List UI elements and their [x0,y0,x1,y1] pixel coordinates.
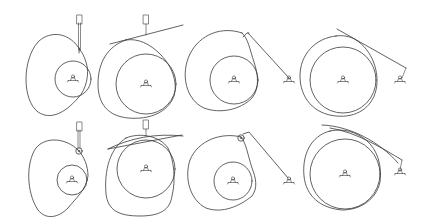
cam-pivot-icon [68,75,79,82]
cam-pivot-icon [340,170,351,177]
follower-link [402,68,406,78]
follower-roller-translating [76,122,82,154]
follower-flat-faced-translating [110,15,183,44]
follower-knife-edge-oscillating [243,33,295,83]
cam-profile [185,31,257,111]
follower-guide-icon [77,122,82,131]
mechanism-flat-faced-translating [98,15,183,118]
cam-pivot-icon [67,176,78,183]
cam-pivot-icon [141,80,152,87]
follower-arm [248,33,289,78]
base-circle [210,56,258,104]
flat-face [110,25,183,44]
cam-profile [98,40,175,119]
cam-profile [29,140,88,217]
follower-guide-icon [77,15,82,24]
follower-roller-oscillating [238,132,295,184]
mechanism-flat-faced-oscillating [300,29,406,116]
follower-knife-edge-translating [77,15,82,53]
cam-profile [188,136,256,211]
base-circle [117,140,175,198]
roller-pin-icon [240,137,242,139]
cam-pivot-icon [141,165,152,172]
flat-face [337,29,406,68]
arm-pivot-icon [395,76,406,83]
follower-flat-faced-translating [108,120,183,149]
cam-profile [304,130,381,210]
follower-guide-icon [144,120,149,129]
follower-arm [243,132,288,178]
cam-pivot-icon [228,177,239,184]
arm-pivot-icon [284,76,295,83]
cam-follower-diagram [0,0,428,224]
flat-face [330,128,402,160]
roller-icon [238,135,244,141]
base-circle [310,139,380,209]
cam-pivot-icon [229,76,240,83]
mechanism-knife-edge-oscillating [185,31,294,111]
diagram-svg [0,0,428,224]
base-circle [310,47,376,113]
base-circle [116,54,176,114]
mechanism-roller-translating [29,122,88,217]
mechanism-flat-faced-translating-2 [106,120,183,216]
base-circle [55,61,91,97]
mechanism-knife-edge-translating [26,15,91,116]
mechanism-flat-faced-oscillating-2 [304,125,406,210]
arm-pivot-icon [284,177,295,184]
follower-flat-faced-oscillating [322,125,406,175]
follower-flat-faced-oscillating [337,29,406,83]
cam-pivot-icon [338,76,349,83]
mechanism-roller-oscillating [188,132,295,210]
base-circle [214,162,252,200]
base-circle [57,165,87,195]
follower-guide-icon [144,15,149,24]
knife-edge-tip [79,48,80,53]
